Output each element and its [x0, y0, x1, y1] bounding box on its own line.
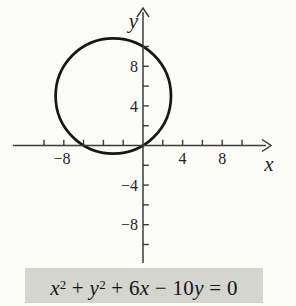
equation-coef-10: 10	[173, 276, 195, 300]
y-tick-label-4: 4	[130, 98, 138, 115]
x-axis-tick-labels: −8 4 8	[53, 150, 226, 167]
circle-curve	[56, 38, 171, 153]
y-tick-label-8: 8	[130, 58, 138, 75]
x-axis-label: x	[263, 152, 274, 176]
equation-x2: x	[140, 276, 150, 300]
y-tick-label-neg8: −8	[121, 216, 138, 233]
equation-minus: −	[149, 276, 172, 300]
y-tick-label-neg4: −4	[121, 177, 138, 194]
equation-y2: y	[194, 276, 204, 300]
equation-coef-6: 6	[129, 276, 140, 300]
equation-equals: =	[204, 276, 227, 300]
equation-caption: x2 + y2 + 6x − 10y = 0	[25, 268, 263, 303]
equation-zero: 0	[227, 276, 238, 300]
equation-y1: y	[90, 276, 100, 300]
equation-plus2: +	[106, 276, 129, 300]
x-tick-label-neg8: −8	[53, 150, 70, 167]
equation-plus1: +	[66, 276, 89, 300]
y-axis-label: y	[127, 9, 139, 33]
equation-text: x2 + y2 + 6x − 10y = 0	[50, 276, 238, 301]
equation-x1: x	[50, 276, 60, 300]
coordinate-plane: y x −8 4 8 8 4 −4 −8	[0, 0, 296, 268]
figure: y x −8 4 8 8 4 −4 −8 x2 + y2 + 6x − 10y …	[0, 0, 296, 306]
x-tick-label-4: 4	[179, 150, 187, 167]
x-tick-label-8: 8	[218, 150, 226, 167]
